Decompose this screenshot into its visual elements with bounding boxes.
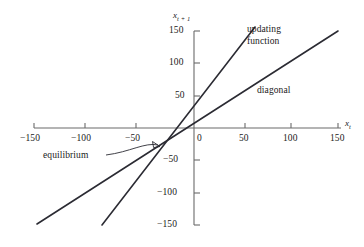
diagonal-label: diagonal xyxy=(257,85,291,96)
y-tick-label-150: 150 xyxy=(169,25,184,36)
x-tick-label--100: −100 xyxy=(71,133,91,144)
x-tick-label-0: 0 xyxy=(197,133,202,144)
x-tick-label-100: 100 xyxy=(283,133,298,144)
x-tick-label-150: 150 xyxy=(330,133,345,144)
y-tick-label--100: −100 xyxy=(157,187,177,198)
y-tick-label-50: 50 xyxy=(175,90,185,101)
y-axis-title: xt + 1 xyxy=(173,10,190,24)
x-axis-ticks xyxy=(34,123,338,128)
y-tick-label--50: −50 xyxy=(163,154,178,165)
x-tick-label--150: −150 xyxy=(20,133,40,144)
chart-figure: −150 −100 −50 0 50 100 150 150 100 50 −5… xyxy=(0,0,364,247)
equilibrium-label: equilibrium xyxy=(43,150,88,161)
x-tick-label--50: −50 xyxy=(125,133,140,144)
x-axis-title-subscript: t xyxy=(349,123,351,130)
x-axis-title: xt xyxy=(345,118,351,132)
updating-function-label: updating function xyxy=(247,24,281,47)
equilibrium-leader-arrow xyxy=(106,144,158,155)
x-tick-label-50: 50 xyxy=(239,133,249,144)
plot-canvas xyxy=(0,0,364,247)
y-tick-label--150: −150 xyxy=(157,219,177,230)
y-tick-label-100: 100 xyxy=(169,57,184,68)
y-axis-title-subscript: t + 1 xyxy=(177,15,190,22)
